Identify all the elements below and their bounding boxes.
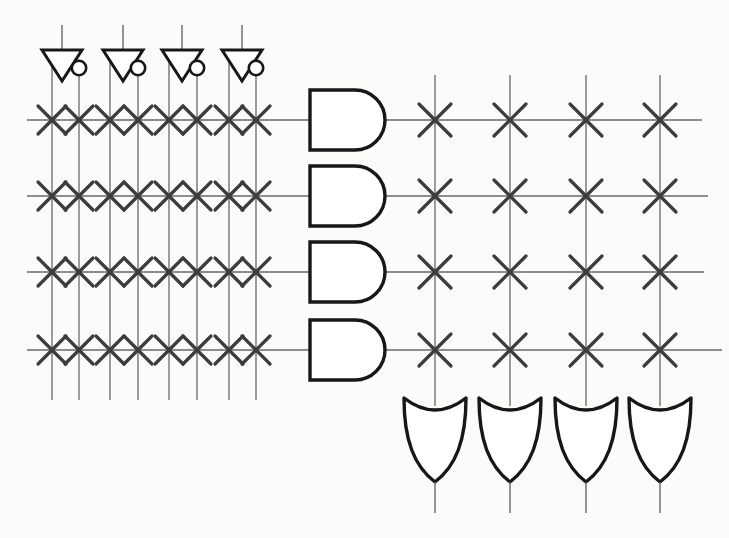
- and-gate-icon: [310, 166, 385, 226]
- and-gate-icon: [310, 320, 385, 380]
- and-gate-icon: [310, 90, 385, 150]
- pla-diagram-canvas: [0, 0, 729, 538]
- pla-diagram: [0, 0, 729, 538]
- inverter-bubble-icon: [72, 61, 86, 75]
- inverter-bubble-icon: [249, 61, 263, 75]
- and-gate-icon: [310, 242, 385, 302]
- inverter-bubble-icon: [190, 61, 204, 75]
- inverter-bubble-icon: [131, 61, 145, 75]
